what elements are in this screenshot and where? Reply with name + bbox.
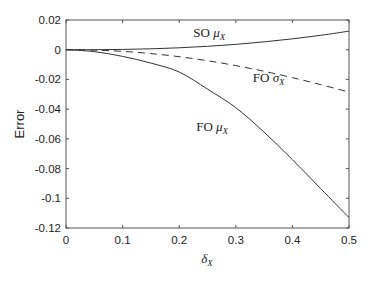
x-tick-label: 0.5 [341,234,357,246]
y-axis-label: Error [12,109,27,139]
y-tick-label: -0.02 [35,73,61,85]
x-tick-label: 0 [63,234,69,246]
x-tick-label: 0.2 [171,234,187,246]
y-tick-label: -0.1 [41,192,61,204]
series-annotation: SO μX [193,25,225,42]
x-tick-label: 0.1 [115,234,131,246]
x-axis-label: δX [201,251,213,268]
error-chart: 00.10.20.30.40.50.020-0.02-0.04-0.06-0.0… [0,0,374,284]
y-tick-label: 0 [55,44,61,56]
series-annotation: FO σX [253,70,285,87]
x-tick-label: 0.4 [284,234,301,246]
series-annotation: FO μX [196,119,228,136]
y-tick-label: -0.12 [35,222,61,234]
y-tick-label: 0.02 [39,14,61,26]
y-tick-label: -0.04 [35,103,62,115]
plot-annotations: SO μXFO σXFO μX [193,25,285,136]
x-tick-label: 0.3 [228,234,244,246]
y-tick-label: -0.06 [35,133,61,145]
y-tick-label: -0.08 [35,163,61,175]
series-line [66,50,349,92]
